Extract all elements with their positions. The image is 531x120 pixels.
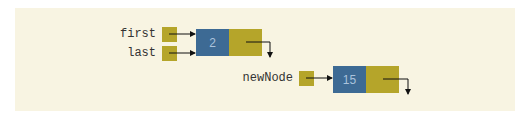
- node-1-null-arrow-icon: [246, 42, 270, 57]
- arrows-layer: [0, 0, 531, 120]
- node-2-null-arrow-icon: [383, 79, 408, 94]
